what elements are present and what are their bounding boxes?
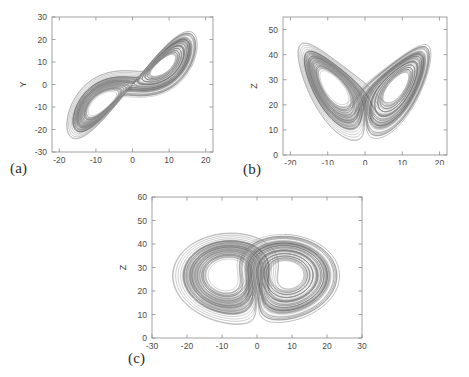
svg-text:-30: -30 <box>146 341 159 351</box>
panel-b-xz-projection: -20-100102001020304050XZ <box>234 0 469 165</box>
svg-text:-20: -20 <box>53 155 66 165</box>
trajectory-group <box>298 43 431 141</box>
panel-c-label: (c) <box>128 350 145 367</box>
plot-frame <box>52 17 213 152</box>
svg-text:30: 30 <box>357 341 367 351</box>
svg-text:-20: -20 <box>284 158 297 165</box>
svg-text:20: 20 <box>138 286 148 296</box>
svg-text:10: 10 <box>138 310 148 320</box>
svg-text:60: 60 <box>138 192 148 202</box>
svg-text:0: 0 <box>42 80 47 90</box>
panel-c-yz-projection: -30-20-1001020300102030405060YZ <box>100 186 390 351</box>
svg-text:40: 40 <box>269 50 279 60</box>
svg-text:-10: -10 <box>35 102 48 112</box>
svg-text:50: 50 <box>138 216 148 226</box>
svg-text:-10: -10 <box>322 158 335 165</box>
svg-text:0: 0 <box>130 155 135 165</box>
svg-text:0: 0 <box>273 150 278 160</box>
y-axis-label: Z <box>249 83 259 89</box>
svg-text:-10: -10 <box>90 155 103 165</box>
trajectory-group <box>173 233 340 324</box>
panel-b-plot: -20-100102001020304050XZ <box>234 0 469 165</box>
svg-text:10: 10 <box>398 158 408 165</box>
svg-text:30: 30 <box>138 263 148 273</box>
svg-text:10: 10 <box>287 341 297 351</box>
y-axis-label: Z <box>118 264 128 270</box>
svg-text:30: 30 <box>38 12 48 22</box>
svg-text:10: 10 <box>269 125 279 135</box>
svg-text:-20: -20 <box>35 125 48 135</box>
svg-text:10: 10 <box>164 155 174 165</box>
panel-b-label: (b) <box>243 161 261 178</box>
svg-text:-10: -10 <box>216 341 229 351</box>
svg-text:40: 40 <box>138 239 148 249</box>
svg-text:20: 20 <box>201 155 211 165</box>
panel-a-xy-projection: -20-1001020-30-20-100102030XY <box>0 0 235 165</box>
panel-a-label: (a) <box>10 160 27 177</box>
svg-text:50: 50 <box>269 25 279 35</box>
trajectory-group <box>67 31 197 138</box>
svg-text:20: 20 <box>435 158 445 165</box>
svg-text:-20: -20 <box>181 341 194 351</box>
svg-text:0: 0 <box>142 333 147 343</box>
svg-text:20: 20 <box>269 100 279 110</box>
panel-a-plot: -20-1001020-30-20-100102030XY <box>0 0 235 165</box>
svg-text:30: 30 <box>269 75 279 85</box>
svg-text:20: 20 <box>322 341 332 351</box>
panel-c-plot: -30-20-1001020300102030405060YZ <box>100 186 390 351</box>
svg-text:0: 0 <box>255 341 260 351</box>
svg-text:10: 10 <box>38 57 48 67</box>
y-axis-label: Y <box>18 81 28 87</box>
svg-text:20: 20 <box>38 35 48 45</box>
svg-text:-30: -30 <box>35 147 48 157</box>
lorenz-attractor-figure: -20-1001020-30-20-100102030XY (a) -20-10… <box>0 0 469 377</box>
svg-text:0: 0 <box>363 158 368 165</box>
